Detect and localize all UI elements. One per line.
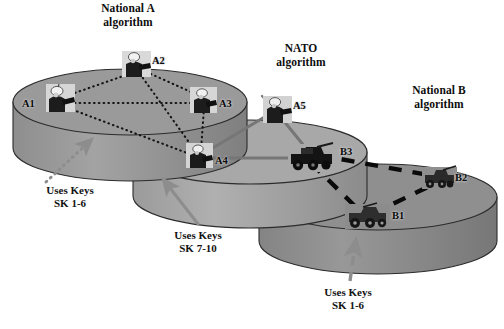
soldier-icon-A4[interactable]: [186, 143, 213, 168]
keys-label-national-a: Uses Keys SK 1-6: [24, 184, 116, 210]
soldier-icon-A5[interactable]: [263, 96, 292, 123]
figure-canvas: National A algorithm NATO algorithm Nati…: [0, 0, 504, 329]
keys-label-nato: Uses Keys SK 7-10: [150, 229, 246, 255]
vehicle-icon-B3[interactable]: [288, 143, 335, 172]
node-label-A2: A2: [152, 55, 165, 66]
vehicle-icon-B1[interactable]: [345, 203, 390, 229]
node-label-B2: B2: [455, 172, 467, 183]
node-label-A1: A1: [22, 98, 35, 109]
node-label-A4: A4: [215, 155, 228, 166]
caption-nato: NATO algorithm: [262, 42, 340, 69]
soldier-icon-A3[interactable]: [190, 87, 217, 113]
diagram-svg: [0, 0, 504, 329]
caption-national-a: National A algorithm: [82, 2, 174, 29]
vehicle-icon-B2[interactable]: [422, 166, 457, 189]
soldier-icon-A2[interactable]: [122, 51, 151, 77]
node-label-A5: A5: [293, 100, 306, 111]
soldier-icon-A1[interactable]: [46, 84, 75, 112]
node-label-A3: A3: [219, 98, 232, 109]
keys-label-national-b: Uses Keys SK 1-6: [302, 286, 394, 312]
node-label-B1: B1: [392, 210, 404, 221]
caption-national-b: National B algorithm: [393, 84, 485, 111]
node-label-B3: B3: [340, 146, 352, 157]
